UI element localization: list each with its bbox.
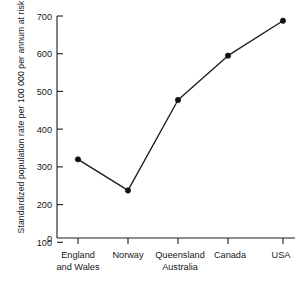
data-point (125, 188, 130, 193)
x-tick-label-usa: USA (272, 250, 292, 260)
data-point (75, 157, 80, 162)
data-point (280, 18, 285, 23)
y-tick-label-500: 500 (37, 87, 52, 97)
x-tick-label-norway: Norway (112, 250, 144, 260)
y-tick-label-300: 300 (37, 162, 52, 172)
x-tick-label-queensland-line1: Queensland (155, 250, 205, 260)
data-point (225, 53, 230, 58)
y-tick-label-700: 700 (37, 12, 52, 22)
y-tick-label-200: 200 (37, 200, 52, 210)
x-tick-label-queensland-line2: Australia (162, 262, 199, 272)
y-tick-label-400: 400 (37, 125, 52, 135)
y-tick-label-600: 600 (37, 49, 52, 59)
y-axis-ticks (57, 16, 63, 242)
x-tick-label-england-line1: England (61, 250, 95, 260)
chart-canvas: 700 600 500 400 300 200 100 0 England an… (0, 0, 302, 288)
x-tick-label-canada: Canada (214, 250, 247, 260)
series-markers (75, 18, 285, 193)
line-chart: Standardized population rate per 100 000… (0, 0, 302, 288)
data-point (175, 97, 180, 102)
series-line (78, 21, 283, 191)
y-tick-label-0: 0 (47, 234, 52, 244)
x-tick-label-england-line2: and Wales (56, 262, 99, 272)
x-axis-ticks (78, 238, 283, 244)
